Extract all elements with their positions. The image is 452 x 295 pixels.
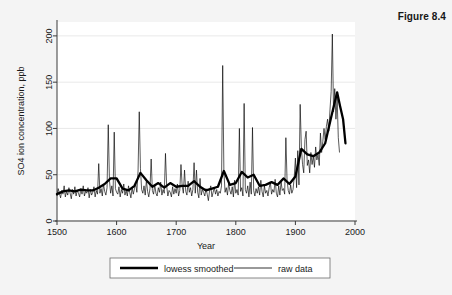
figure-label: Figure 8.4 [398,11,446,22]
x-tick-label: 2000 [345,227,365,237]
x-tick-label: 1700 [166,227,186,237]
x-tick-label: 1800 [226,227,246,237]
legend-label-lowess-smoothed: lowess smoothed [164,264,234,274]
y-tick-label: 0 [44,218,54,223]
y-axis-title: SO4 ion concentration, ppb [16,66,26,175]
y-tick-label: 50 [44,170,54,180]
x-tick-label: 1500 [47,227,67,237]
y-tick-label: 100 [44,121,54,136]
x-tick-label: 1600 [107,227,127,237]
x-tick-label: 1900 [285,227,305,237]
chart-legend: lowess smoothed raw data [110,258,330,278]
x-axis-title: Year [197,241,215,251]
y-tick-label: 150 [44,75,54,90]
figure-container: 050100150200 150016001700180019002000 SO… [0,0,452,295]
y-tick-label: 200 [44,28,54,43]
chart-svg: 050100150200 150016001700180019002000 SO… [0,0,452,295]
legend-label-raw-data: raw data [278,264,313,274]
